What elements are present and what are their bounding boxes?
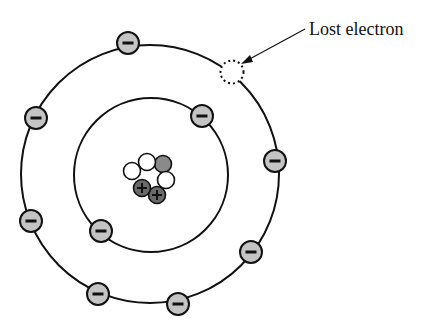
electron xyxy=(240,241,262,263)
orbit-outer xyxy=(21,45,279,303)
lost-electron-marker xyxy=(221,61,244,84)
lost-electron-annotation: Lost electron xyxy=(241,19,403,64)
minus-sign-icon xyxy=(31,117,42,120)
orbits xyxy=(21,45,279,303)
minus-sign-icon xyxy=(197,115,208,118)
minus-sign-icon xyxy=(26,220,37,223)
electrons xyxy=(20,32,286,315)
arrow-head-icon xyxy=(241,55,253,64)
electron xyxy=(117,32,139,54)
annotation-arrow-line xyxy=(246,29,305,61)
atom-diagram: Lost electron xyxy=(0,0,438,335)
neutron xyxy=(139,154,156,171)
nucleus xyxy=(124,154,175,204)
lost-electron-label: Lost electron xyxy=(309,19,403,39)
minus-sign-icon xyxy=(173,303,184,306)
electron xyxy=(20,210,42,232)
electron xyxy=(191,105,213,127)
minus-sign-icon xyxy=(246,251,257,254)
proton xyxy=(134,180,151,197)
minus-sign-icon xyxy=(270,160,281,163)
dotted-circle-icon xyxy=(221,61,244,84)
electron xyxy=(87,283,109,305)
electron xyxy=(264,150,286,172)
minus-sign-icon xyxy=(93,293,104,296)
neutron xyxy=(155,156,172,173)
electron xyxy=(25,107,47,129)
neutron xyxy=(158,172,175,189)
minus-sign-icon xyxy=(96,230,107,233)
minus-sign-icon xyxy=(123,42,134,45)
neutron xyxy=(124,163,141,180)
electron xyxy=(90,220,112,242)
electron xyxy=(167,293,189,315)
